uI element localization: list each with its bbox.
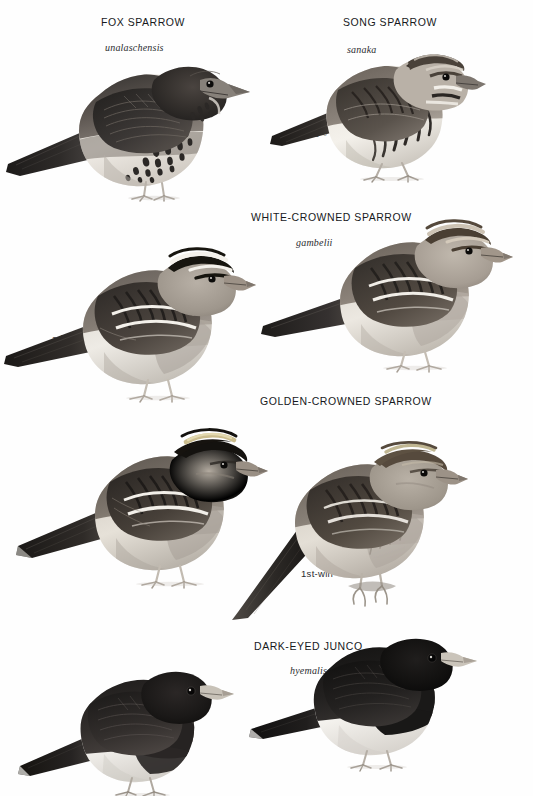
species-title-golden-crowned-sparrow: GOLDEN-CROWNED SPARROW xyxy=(260,395,432,407)
bird-illustration-white-crowned-ad-sum xyxy=(0,228,260,388)
bird-illustration-golden-crowned-1st-win xyxy=(230,430,510,620)
bird-illustration-junco-ad-male xyxy=(245,615,485,765)
field-guide-page: FOX SPARROW unalaschensis ad xyxy=(0,0,533,796)
bird-illustration-white-crowned-1st-win xyxy=(257,200,517,360)
species-title-fox-sparrow: FOX SPARROW xyxy=(101,16,185,28)
bird-illustration-fox-sparrow-ad xyxy=(4,36,254,196)
bird-illustration-junco-1st-win xyxy=(14,650,244,790)
species-title-song-sparrow: SONG SPARROW xyxy=(343,16,437,28)
bird-illustration-song-sparrow-ad-male xyxy=(268,32,488,177)
